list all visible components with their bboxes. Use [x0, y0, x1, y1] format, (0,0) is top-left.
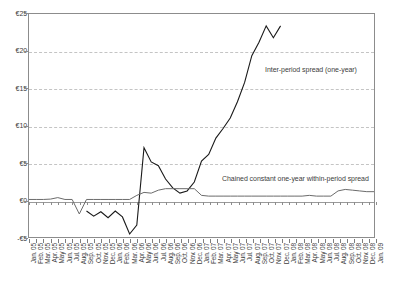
zero-tick — [369, 202, 370, 205]
zero-tick — [130, 202, 131, 205]
zero-tick — [318, 202, 319, 205]
zero-tick — [282, 202, 283, 205]
x-axis-label: Jan. 09 — [378, 243, 385, 263]
zero-tick — [289, 202, 290, 205]
zero-tick — [275, 202, 276, 205]
zero-tick — [159, 202, 160, 205]
zero-tick — [116, 202, 117, 205]
zero-tick — [188, 202, 189, 205]
zero-tick — [246, 202, 247, 205]
zero-tick — [51, 202, 52, 205]
zero-tick — [43, 202, 44, 205]
x-axis-label: Feb. 06 — [124, 243, 131, 264]
x-axis-label: Nov. 07 — [276, 243, 283, 264]
zero-tick — [109, 202, 110, 205]
zero-tick — [354, 202, 355, 205]
zero-tick — [340, 202, 341, 205]
x-axis-label: Mar. 07 — [218, 243, 225, 264]
zero-tick — [94, 202, 95, 205]
x-axis-label: Sep. 05 — [88, 243, 95, 264]
zero-tick — [376, 202, 377, 205]
zero-tick — [260, 202, 261, 205]
zero-tick — [123, 202, 124, 205]
zero-tick — [174, 202, 175, 205]
zero-tick — [58, 202, 59, 205]
x-axis-label: May 05 — [59, 243, 66, 263]
zero-tick — [253, 202, 254, 205]
zero-tick — [304, 202, 305, 205]
zero-tick — [87, 202, 88, 205]
zero-tick — [231, 202, 232, 205]
zero-tick — [65, 202, 66, 205]
zero-tick — [347, 202, 348, 205]
zero-tick — [217, 202, 218, 205]
zero-tick — [36, 202, 37, 205]
zero-tick — [325, 202, 326, 205]
zero-tick — [181, 202, 182, 205]
zero-tick — [80, 202, 81, 205]
annotation-inter-period-spread: Inter-period spread (one-year) — [265, 66, 357, 74]
x-axis-label: Aug. 08 — [341, 243, 348, 264]
x-axis-label: Jun. 06 — [153, 243, 160, 263]
zero-tick — [101, 202, 102, 205]
x-axis-label: Oct. 06 — [182, 243, 189, 263]
zero-tick — [239, 202, 240, 205]
zero-tick — [166, 202, 167, 205]
plot-area — [28, 13, 375, 238]
zero-tick — [362, 202, 363, 205]
zero-tick — [29, 202, 30, 205]
zero-tick — [203, 202, 204, 205]
zero-tick — [145, 202, 146, 205]
annotation-chained-spread: Chained constant one-year within-period … — [222, 175, 369, 183]
zero-tick — [137, 202, 138, 205]
zero-tick — [195, 202, 196, 205]
zero-tick — [333, 202, 334, 205]
zero-tick — [224, 202, 225, 205]
x-axis-label: Jul. 07 — [247, 243, 254, 261]
chart-container: €25€20€15€10€5€0-€5 Jan. 05Feb. 05Mar. 0… — [0, 0, 406, 283]
x-axis-label: Dec. 08 — [370, 243, 377, 264]
zero-tick — [210, 202, 211, 205]
y-axis-tick--5 — [24, 238, 28, 239]
zero-tick — [72, 202, 73, 205]
zero-tick — [268, 202, 269, 205]
x-ticks — [29, 14, 374, 237]
x-axis-label: Apr. 08 — [312, 243, 319, 263]
zero-tick — [296, 202, 297, 205]
zero-tick — [311, 202, 312, 205]
zero-tick — [152, 202, 153, 205]
